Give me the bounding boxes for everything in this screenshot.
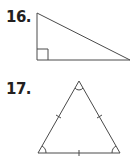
equilateral-triangle (38, 81, 120, 153)
angle-arc-bottom-right-icon (112, 146, 116, 153)
equilateral-triangle-figure (38, 81, 120, 156)
angle-arc-top-icon (75, 88, 83, 90)
right-triangle (37, 13, 130, 60)
right-angle-marker-icon (37, 49, 48, 60)
angle-arc-bottom-left-icon (42, 146, 46, 153)
figures-canvas (0, 0, 135, 165)
right-triangle-figure (37, 13, 130, 60)
